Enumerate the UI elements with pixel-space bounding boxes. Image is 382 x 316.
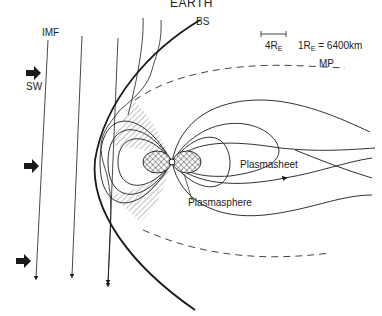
solar-wind-label: SW <box>26 82 42 92</box>
diagram-title: EARTH <box>170 0 213 9</box>
earth <box>169 159 175 165</box>
earth-radius-equation: 1RE = 6400km <box>298 41 362 52</box>
bow-shock-label: BS <box>196 17 209 27</box>
scale-bar <box>261 31 286 37</box>
plasmasheet-label: Plasmasheet <box>240 160 298 170</box>
solar-wind-arrows <box>16 66 41 268</box>
magnetopause <box>135 65 345 100</box>
magnetopause-label: MP <box>319 59 334 69</box>
plasmasphere-east <box>173 151 201 173</box>
plasmasphere-west <box>143 151 171 173</box>
plasmasphere-label: Plasmasphere <box>188 198 252 208</box>
cusp-south <box>110 165 170 222</box>
scale-bar-label: 4RE <box>265 41 282 52</box>
imf-field-lines <box>36 18 161 285</box>
imf-label: IMF <box>42 28 59 38</box>
